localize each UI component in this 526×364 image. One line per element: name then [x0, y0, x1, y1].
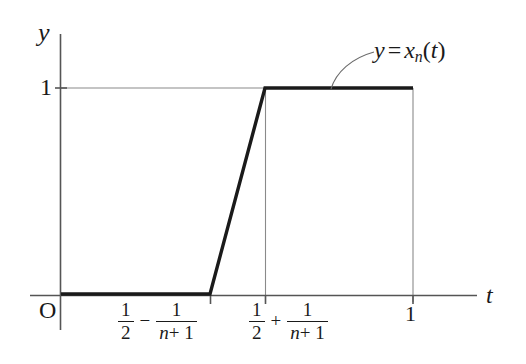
origin-label: O — [39, 298, 56, 322]
x-tick-label-one: 1 — [405, 303, 416, 325]
fraction-one-over-n-plus-one: 1 n+ 1 — [156, 300, 196, 343]
variable-n: n — [159, 322, 169, 343]
equals-sign: = — [388, 37, 402, 63]
fraction-denominator: 2 — [118, 321, 134, 343]
annotation-lhs: y — [374, 37, 385, 63]
x-tick-label-ramp-start: 1 2 − 1 n+ 1 — [118, 300, 197, 343]
denominator-rest: + 1 — [300, 322, 325, 343]
t-axis-label: t — [486, 283, 493, 307]
fraction-denominator: n+ 1 — [287, 321, 327, 343]
fraction-denominator: n+ 1 — [156, 321, 196, 343]
fraction-denominator: 2 — [249, 321, 265, 343]
x-tick-label-ramp-end: 1 2 + 1 n+ 1 — [249, 300, 328, 343]
fraction-numerator: 1 — [300, 300, 316, 321]
denominator-rest: + 1 — [169, 322, 194, 343]
annotation-subscript: n — [415, 48, 423, 65]
plus-operator: + — [271, 310, 282, 332]
curve-annotation-label: y=xn(t) — [374, 38, 445, 65]
fraction-numerator: 1 — [169, 300, 185, 321]
fraction-one-half: 1 2 — [118, 300, 134, 343]
annotation-close-paren: ) — [437, 37, 445, 63]
minus-operator: − — [140, 310, 151, 332]
figure-container: y t O 1 1 1 2 − 1 n+ 1 1 2 + 1 n+ 1 — [0, 0, 526, 364]
annotation-function-name: x — [404, 37, 415, 63]
fraction-one-over-n-plus-one: 1 n+ 1 — [287, 300, 327, 343]
y-axis-label: y — [38, 20, 50, 46]
fraction-one-half: 1 2 — [249, 300, 265, 343]
annotation-leader-line — [331, 52, 374, 89]
function-curve — [61, 88, 413, 294]
variable-n: n — [290, 322, 300, 343]
y-tick-label-one: 1 — [40, 75, 52, 99]
fraction-numerator: 1 — [249, 300, 265, 321]
annotation-open-paren: ( — [423, 37, 431, 63]
fraction-numerator: 1 — [118, 300, 134, 321]
